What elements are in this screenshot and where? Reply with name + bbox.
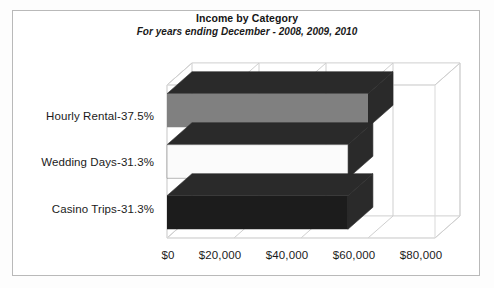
chart-figure: Income by Category For years ending Dece… <box>0 0 494 288</box>
bars-3d <box>167 72 393 230</box>
plot-area <box>0 0 494 288</box>
plot-svg <box>0 0 494 288</box>
bar-group-2 <box>167 174 373 230</box>
bar-front-face-1 <box>167 145 348 179</box>
bar-group-0 <box>167 72 393 128</box>
bar-front-face-2 <box>167 196 348 230</box>
bar-top-face-2 <box>167 174 373 196</box>
bar-front-face-0 <box>167 94 368 128</box>
bar-group-1 <box>167 123 373 179</box>
bar-top-face-0 <box>167 72 393 94</box>
bar-top-face-1 <box>167 123 373 145</box>
